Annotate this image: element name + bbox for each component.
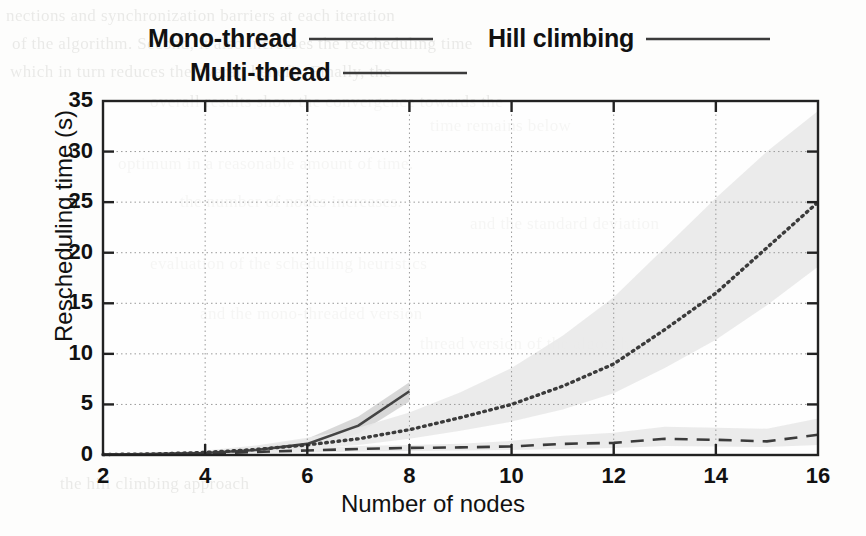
rescheduling-time-plot [0, 0, 866, 536]
